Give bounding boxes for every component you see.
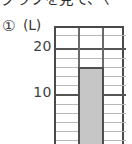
y-axis-tick-labels: 20 10 <box>0 26 52 144</box>
gridline-22 <box>56 35 126 36</box>
y-axis-tick-10: 10 <box>33 84 52 100</box>
gridline-20-major <box>56 48 126 50</box>
instruction-heading-strip: グラフを見て、〈 <box>0 0 132 12</box>
y-axis-tick-20: 20 <box>33 38 52 54</box>
gridline-18 <box>56 58 126 59</box>
plot-area-frame <box>54 26 124 144</box>
bar-series-1 <box>78 67 104 144</box>
bar-chart <box>54 26 124 144</box>
instruction-heading-text: グラフを見て、〈 <box>1 0 109 8</box>
